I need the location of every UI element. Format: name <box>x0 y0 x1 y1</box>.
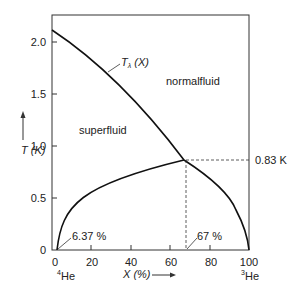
t-lambda-label: Tλ (X) <box>121 56 149 69</box>
left-point-label: 6.37 % <box>72 230 106 242</box>
superfluid-label: superfluid <box>79 124 127 136</box>
xtick-60: 60 <box>165 256 177 268</box>
lambda-line <box>52 30 184 160</box>
x-axis-ticks <box>91 245 210 250</box>
he4-label: 4 He <box>57 269 75 282</box>
svg-text:He: He <box>245 270 259 282</box>
phase-diagram: 0 0.5 1.0 1.5 2.0 0 20 40 60 80 100 4 He… <box>0 0 290 292</box>
he3-label: 3 He <box>241 269 259 282</box>
ytick-0: 0 <box>40 244 46 256</box>
tricritical-temp-label: 0.83 K <box>255 154 287 166</box>
tricritical-x-label: 67 % <box>197 230 222 242</box>
svg-text:He: He <box>61 270 75 282</box>
ytick-2-0: 2.0 <box>31 36 46 48</box>
normalfluid-label: normalfluid <box>166 75 220 87</box>
lambda-leader-line <box>108 64 120 72</box>
x-axis-tick-labels: 0 20 40 60 80 100 <box>52 256 258 268</box>
x-arrow-icon <box>152 273 176 278</box>
xtick-20: 20 <box>86 256 98 268</box>
xtick-80: 80 <box>205 256 217 268</box>
ytick-0-5: 0.5 <box>31 192 46 204</box>
xtick-40: 40 <box>125 256 137 268</box>
y-axis-label: T (K) <box>21 144 46 156</box>
x-axis-label: X (%) <box>122 268 151 280</box>
y-arrow-icon <box>21 111 26 140</box>
xtick-100: 100 <box>240 256 258 268</box>
y-axis-ticks <box>52 42 57 198</box>
tricritical-x-leader-line <box>187 238 197 249</box>
left-point-leader-line <box>58 238 71 249</box>
xtick-0: 0 <box>52 256 58 268</box>
ytick-1-5: 1.5 <box>31 88 46 100</box>
